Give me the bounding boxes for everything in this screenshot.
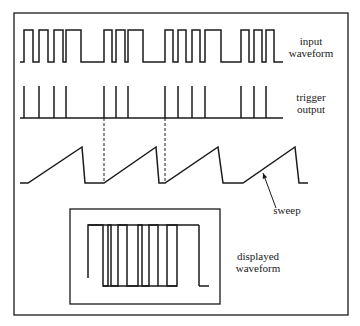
displayed-waveform-trace bbox=[88, 225, 209, 286]
input-label-line1: input bbox=[286, 35, 336, 47]
trigger-output-label: trigger output bbox=[286, 91, 336, 115]
sweep-arrow-icon bbox=[263, 173, 276, 208]
trigger-output-trace bbox=[20, 86, 283, 118]
displayed-label-line2: waveform bbox=[228, 262, 288, 274]
input-waveform-label: input waveform bbox=[286, 35, 336, 59]
input-waveform-trace bbox=[20, 30, 283, 62]
input-label-line2: waveform bbox=[286, 47, 336, 59]
trigger-label-line2: output bbox=[286, 103, 336, 115]
displayed-label-line1: displayed bbox=[228, 250, 288, 262]
trigger-label-line1: trigger bbox=[286, 91, 336, 103]
timebase-diagram: input waveform trigger output sweep disp… bbox=[0, 0, 360, 326]
sweep-label: sweep bbox=[262, 204, 312, 216]
displayed-waveform-label: displayed waveform bbox=[228, 250, 288, 274]
display-screen-box bbox=[70, 209, 220, 304]
